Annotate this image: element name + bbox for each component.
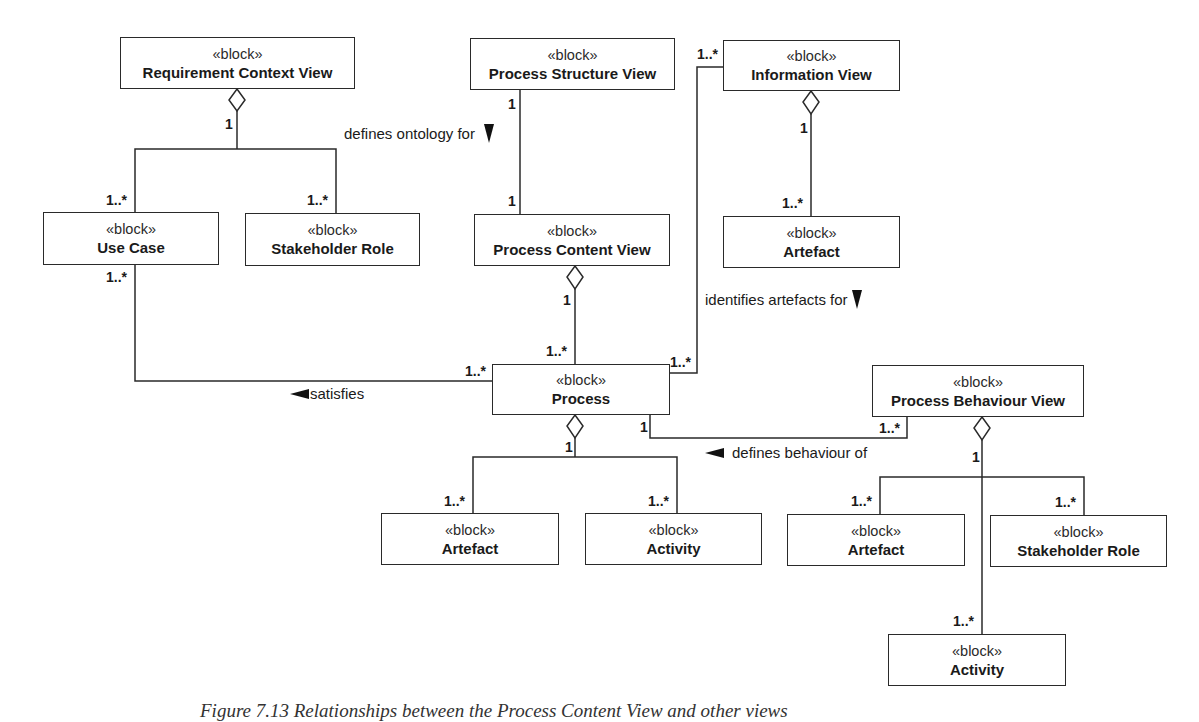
direction-arrow-left-icon (290, 389, 309, 399)
stereotype-label: «block» (106, 220, 156, 238)
block-name: Process (552, 389, 610, 408)
block-name: Use Case (97, 238, 165, 257)
block-name: Artefact (783, 242, 840, 261)
block-stakeholder-role-behaviour[interactable]: «block» Stakeholder Role (990, 515, 1167, 567)
multiplicity-label: 1..* (697, 47, 718, 61)
stereotype-label: «block» (787, 224, 837, 242)
multiplicity-label: 1..* (465, 364, 486, 378)
stereotype-label: «block» (556, 371, 606, 389)
block-process[interactable]: «block» Process (492, 364, 670, 415)
multiplicity-label: 1 (225, 117, 233, 131)
multiplicity-label: 1..* (1055, 495, 1076, 509)
association-label: satisfies (310, 386, 364, 402)
aggregation-diamond-icon (229, 89, 245, 111)
stereotype-label: «block» (308, 221, 358, 239)
stereotype-label: «block» (952, 642, 1002, 660)
block-stakeholder-role[interactable]: «block» Stakeholder Role (245, 213, 420, 266)
block-name: Information View (751, 65, 872, 84)
block-use-case[interactable]: «block» Use Case (43, 212, 219, 265)
multiplicity-label: 1..* (648, 494, 669, 508)
block-information-view[interactable]: «block» Information View (723, 40, 900, 91)
multiplicity-label: 1 (565, 440, 573, 454)
block-name: Stakeholder Role (271, 239, 394, 258)
stereotype-label: «block» (953, 373, 1003, 391)
multiplicity-label: 1..* (444, 494, 465, 508)
aggregation-diamond-icon (974, 417, 990, 440)
multiplicity-label: 1 (563, 293, 571, 307)
multiplicity-label: 1 (800, 121, 808, 135)
block-requirement-context-view[interactable]: «block» Requirement Context View (120, 37, 355, 89)
stereotype-label: «block» (445, 521, 495, 539)
figure-caption: Figure 7.13 Relationships between the Pr… (200, 700, 960, 722)
block-name: Stakeholder Role (1017, 541, 1140, 560)
multiplicity-label: 1..* (670, 355, 691, 369)
direction-arrow-down-icon (484, 124, 494, 143)
multiplicity-label: 1 (972, 450, 980, 464)
multiplicity-label: 1..* (953, 614, 974, 628)
block-name: Artefact (442, 539, 499, 558)
stereotype-label: «block» (787, 47, 837, 65)
multiplicity-label: 1..* (106, 193, 127, 207)
multiplicity-label: 1..* (851, 494, 872, 508)
association-label: defines ontology for (344, 126, 475, 142)
aggregation-diamond-icon (567, 266, 583, 289)
aggregation-diamond-icon (567, 415, 583, 438)
block-artefact-behaviour[interactable]: «block» Artefact (787, 514, 965, 566)
block-name: Activity (950, 660, 1004, 679)
block-name: Requirement Context View (143, 63, 333, 82)
stereotype-label: «block» (851, 522, 901, 540)
block-process-behaviour-view[interactable]: «block» Process Behaviour View (872, 365, 1084, 417)
block-artefact-process[interactable]: «block» Artefact (381, 513, 559, 565)
direction-arrow-left-icon (705, 448, 724, 458)
association-defines-behaviour-of: defines behaviour of (705, 445, 867, 461)
block-name: Process Structure View (489, 64, 656, 83)
stereotype-label: «block» (548, 46, 598, 64)
association-satisfies: satisfies (290, 386, 364, 402)
association-label: identifies artefacts for (705, 292, 848, 308)
block-activity-process[interactable]: «block» Activity (585, 513, 762, 565)
association-defines-ontology-for: defines ontology for (344, 124, 494, 143)
block-name: Activity (646, 539, 700, 558)
multiplicity-label: 1 (508, 194, 516, 208)
association-label: defines behaviour of (732, 445, 867, 461)
stereotype-label: «block» (213, 45, 263, 63)
block-process-content-view[interactable]: «block» Process Content View (474, 214, 670, 266)
multiplicity-label: 1..* (879, 421, 900, 435)
block-name: Process Content View (493, 240, 650, 259)
block-name: Process Behaviour View (891, 391, 1065, 410)
aggregation-diamond-icon (803, 91, 819, 114)
block-artefact-information[interactable]: «block» Artefact (723, 216, 900, 268)
block-process-structure-view[interactable]: «block» Process Structure View (470, 38, 675, 90)
stereotype-label: «block» (547, 222, 597, 240)
multiplicity-label: 1 (508, 97, 516, 111)
multiplicity-label: 1..* (106, 270, 127, 284)
multiplicity-label: 1..* (782, 196, 803, 210)
stereotype-label: «block» (1054, 523, 1104, 541)
multiplicity-label: 1 (640, 420, 648, 434)
stereotype-label: «block» (649, 521, 699, 539)
multiplicity-label: 1..* (546, 344, 567, 358)
direction-arrow-down-icon (852, 290, 862, 309)
block-activity-behaviour[interactable]: «block» Activity (888, 634, 1066, 686)
association-identifies-artefacts-for: identifies artefacts for (705, 290, 862, 309)
block-name: Artefact (848, 540, 905, 559)
multiplicity-label: 1..* (307, 193, 328, 207)
